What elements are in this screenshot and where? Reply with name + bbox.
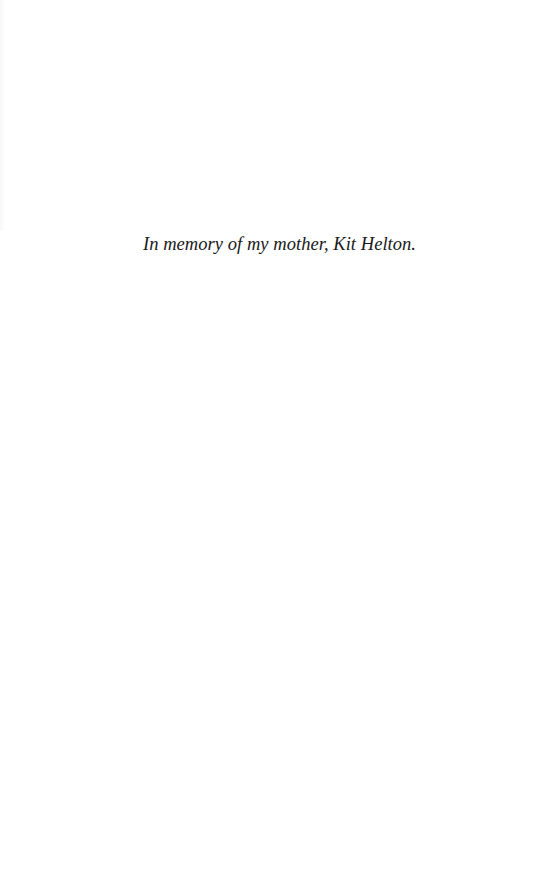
dedication-text: In memory of my mother, Kit Helton. <box>143 234 416 255</box>
dedication-page: In memory of my mother, Kit Helton. <box>0 0 537 886</box>
page-edge-shadow <box>0 0 6 230</box>
